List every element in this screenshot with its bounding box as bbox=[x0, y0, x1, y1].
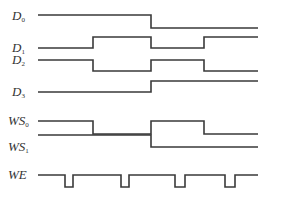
waveform-we bbox=[38, 175, 258, 187]
waveform-ws1 bbox=[38, 135, 258, 147]
waveform-ws0 bbox=[38, 121, 258, 134]
waveform-d1 bbox=[38, 37, 258, 48]
waveform-canvas bbox=[0, 0, 281, 208]
waveform-d3 bbox=[38, 81, 258, 92]
timing-diagram: D0 D1 D2 D3 WS0 WS1 WE bbox=[0, 0, 281, 208]
waveform-d2 bbox=[38, 60, 258, 71]
waveform-d0 bbox=[38, 15, 258, 28]
